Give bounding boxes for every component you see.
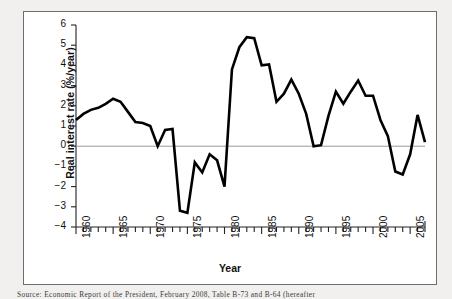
x-tick-label: 1975 (192, 216, 203, 238)
figure-source-caption: Source: Economic Report of the President… (17, 290, 441, 299)
y-tick-label: 5 (40, 38, 66, 49)
y-tick-label: 0 (40, 139, 66, 150)
x-tick-label: 1970 (155, 216, 166, 238)
y-tick-label: −1 (40, 159, 66, 170)
x-tick-label: 1960 (81, 216, 92, 238)
y-tick-label: 1 (40, 119, 66, 130)
y-tick-label: −3 (40, 200, 66, 211)
x-tick-label: 1985 (267, 216, 278, 238)
x-tick-label: 2005 (415, 216, 426, 238)
x-tick-label: 1995 (341, 216, 352, 238)
y-tick-label: 2 (40, 99, 66, 110)
line-chart-plot (24, 12, 438, 286)
y-tick-label: −2 (40, 180, 66, 191)
chart-figure-frame: Real interest rate (%/year) Year 6543210… (23, 11, 437, 285)
y-tick-label: −4 (40, 220, 66, 231)
y-tick-label: 3 (40, 79, 66, 90)
x-tick-label: 2000 (378, 216, 389, 238)
x-tick-label: 1990 (304, 216, 315, 238)
y-tick-label: 4 (40, 58, 66, 69)
x-tick-label: 1965 (118, 216, 129, 238)
y-tick-label: 6 (40, 18, 66, 29)
x-tick-label: 1980 (230, 216, 241, 238)
